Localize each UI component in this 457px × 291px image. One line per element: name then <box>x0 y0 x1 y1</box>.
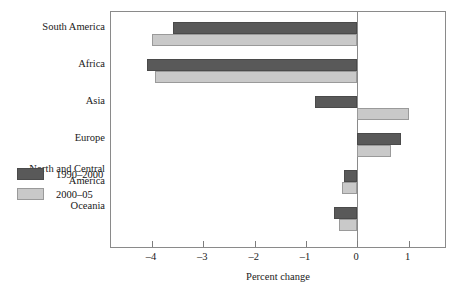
tick-label: 0 <box>341 251 371 262</box>
zero-baseline <box>357 12 358 247</box>
x-axis-title: Percent change <box>110 271 446 282</box>
tick-mark <box>203 241 204 247</box>
tick-label: 1 <box>393 251 423 262</box>
tick-mark <box>306 241 307 247</box>
tick-mark <box>255 241 256 247</box>
plot-inner <box>111 12 445 247</box>
bar-africa-2000-05 <box>155 71 358 83</box>
category-label-text: Africa <box>78 58 105 69</box>
category-label-asia: Asia <box>1 95 105 107</box>
bar-asia-1990-2000 <box>315 96 357 108</box>
category-label-europe: Europe <box>1 132 105 144</box>
tick-label: –1 <box>290 251 320 262</box>
category-label-text: Asia <box>86 95 105 106</box>
tick-label: –2 <box>239 251 269 262</box>
bar-africa-1990-2000 <box>147 59 357 71</box>
tick-label: –3 <box>187 251 217 262</box>
legend-swatch-2000-05 <box>17 188 44 200</box>
bar-south-america-1990-2000 <box>173 22 358 34</box>
bar-oceania-2000-05 <box>339 219 357 231</box>
bar-south-america-2000-05 <box>152 34 357 46</box>
legend-entry: 2000–05 <box>17 186 103 202</box>
bar-asia-2000-05 <box>357 108 408 120</box>
bar-europe-1990-2000 <box>357 133 401 145</box>
legend: 1990–2000 2000–05 <box>17 166 103 206</box>
cut-off-heading <box>0 0 457 4</box>
legend-swatch-1990-2000 <box>17 168 44 180</box>
bar-north-and-central-america-1990-2000 <box>344 170 357 182</box>
category-label-south-america: South America <box>1 21 105 33</box>
plot-area <box>110 11 446 248</box>
category-label-text: South America <box>42 21 105 32</box>
bar-oceania-1990-2000 <box>334 207 357 219</box>
category-label-africa: Africa <box>1 58 105 70</box>
category-label-text: Europe <box>75 132 105 143</box>
legend-entry: 1990–2000 <box>17 166 103 182</box>
tick-mark <box>357 241 358 247</box>
legend-label: 2000–05 <box>56 189 93 200</box>
tick-mark <box>152 241 153 247</box>
chart-figure: South America Africa Asia Europe North a… <box>0 0 457 291</box>
tick-label: –4 <box>136 251 166 262</box>
legend-label: 1990–2000 <box>56 169 103 180</box>
bar-north-and-central-america-2000-05 <box>342 182 357 194</box>
tick-mark <box>409 241 410 247</box>
bar-europe-2000-05 <box>357 145 390 157</box>
